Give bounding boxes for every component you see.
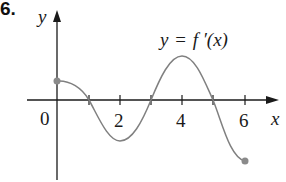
curve-label-y: y [158, 29, 169, 50]
start-endpoint [54, 78, 61, 85]
x-axis-label: x [270, 108, 280, 129]
derivative-graph: y x 0 2 4 6 y = f ′(x) [0, 0, 286, 182]
curve-label-f: f [193, 29, 201, 50]
tick-label-4: 4 [176, 110, 186, 131]
curve-equation-label: y = f ′(x) [158, 29, 228, 51]
end-endpoint [242, 158, 249, 165]
x-axis-arrow-icon [266, 96, 279, 104]
curve-label-arg: ′(x) [203, 29, 228, 51]
origin-label: 0 [40, 108, 50, 129]
y-axis-label: y [36, 6, 47, 27]
tick-label-2: 2 [114, 110, 124, 131]
tick-label-6: 6 [239, 110, 249, 131]
y-axis-arrow-icon [53, 10, 61, 22]
derivative-curve [57, 56, 245, 161]
curve-label-equals: = [175, 29, 186, 50]
